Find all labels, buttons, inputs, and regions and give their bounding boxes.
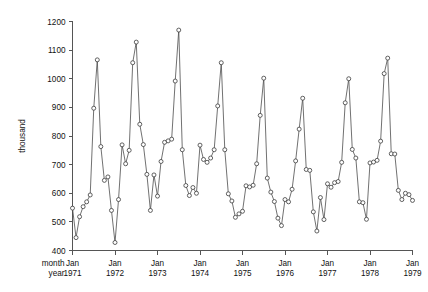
data-point [393,152,397,156]
x-tick-month-label: Jan [278,259,292,268]
data-point [191,186,195,190]
data-point [78,215,82,219]
x-axis-row-labels: monthyear [42,259,65,278]
chart-container: 400500600700800900100011001200 Jan1971Ja… [0,0,428,292]
x-tick-year-label: 1973 [148,269,167,278]
x-tick-month-label: Jan [236,259,250,268]
data-point [407,193,411,197]
line-chart: 400500600700800900100011001200 Jan1971Ja… [0,0,428,292]
data-point [251,183,255,187]
x-tick-month-label: Jan [321,259,335,268]
data-point [124,162,128,166]
data-point [233,215,237,219]
data-point [141,143,145,147]
y-tick-label: 600 [52,189,66,198]
data-point [71,206,75,210]
x-tick-year-label: 1974 [191,269,210,278]
data-point [120,143,124,147]
data-point [318,196,322,200]
data-point [386,56,390,60]
data-point [187,194,191,198]
data-point [202,157,206,161]
data-point [308,168,312,172]
data-point [205,160,209,164]
data-point [340,160,344,164]
data-point [85,200,89,204]
data-point [354,156,358,160]
x-axis: Jan1971Jan1972Jan1973Jan1974Jan1975Jan19… [63,251,422,278]
data-point [184,184,188,188]
data-point [347,77,351,81]
data-point [95,58,99,62]
data-point [315,229,319,233]
data-point [74,236,78,240]
data-point [297,127,301,131]
data-point [198,143,202,147]
y-axis: 400500600700800900100011001200 [47,18,72,256]
x-tick-month-label: Jan [406,259,420,268]
data-point [287,200,291,204]
data-point [219,61,223,65]
data-series [71,28,415,244]
y-axis-title-text: thousand [18,119,27,153]
x-tick-month-label: Jan [193,259,207,268]
data-point [109,208,113,212]
x-tick-month-label: Jan [108,259,122,268]
data-point [294,159,298,163]
data-point [209,156,213,160]
data-point [173,79,177,83]
data-point [400,198,404,202]
y-tick-label: 1000 [47,75,66,84]
y-tick-label: 1100 [48,46,66,55]
x-tick-month-label: Jan [66,259,80,268]
x-axis-month-row-label: month [42,259,65,268]
x-tick-month-label: Jan [363,259,377,268]
data-point [117,198,121,202]
x-tick-year-label: 1971 [63,269,82,278]
data-point [223,148,227,152]
data-point [290,187,294,191]
data-point [99,145,103,149]
y-tick-label: 400 [52,247,66,256]
data-point [279,224,283,228]
data-point [216,104,220,108]
data-point [156,194,160,198]
data-point [272,200,276,204]
data-point [322,218,326,222]
data-point [127,148,131,152]
data-point [276,216,280,220]
data-point [241,209,245,213]
y-tick-label: 800 [52,132,66,141]
data-point [237,212,241,216]
data-point [258,113,262,117]
y-tick-label: 700 [52,161,66,170]
data-point [411,198,415,202]
data-point [212,148,216,152]
data-point [226,192,230,196]
data-point [106,175,110,179]
data-point [102,178,106,182]
data-point [255,162,259,166]
y-tick-label: 1200 [47,18,66,27]
x-axis-year-row-label: year [49,269,65,278]
data-point [311,210,315,214]
data-point [230,199,234,203]
x-tick-year-label: 1977 [318,269,337,278]
data-point [138,122,142,126]
data-point [88,193,92,197]
data-point [379,139,383,143]
data-point [152,173,156,177]
data-point [269,190,273,194]
data-point [81,205,85,209]
x-tick-year-label: 1976 [276,269,295,278]
data-point [145,172,149,176]
x-tick-year-label: 1975 [233,269,252,278]
data-point [170,137,174,141]
data-point [350,147,354,151]
data-point [301,96,305,100]
x-tick-year-label: 1972 [106,269,125,278]
data-point [326,182,330,186]
data-point [364,217,368,221]
y-axis-title: thousand [18,119,27,153]
data-point [131,61,135,65]
